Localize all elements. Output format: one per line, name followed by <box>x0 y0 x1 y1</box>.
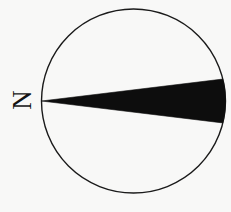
figure-root: N <box>0 0 231 212</box>
north-label: N <box>9 90 36 110</box>
